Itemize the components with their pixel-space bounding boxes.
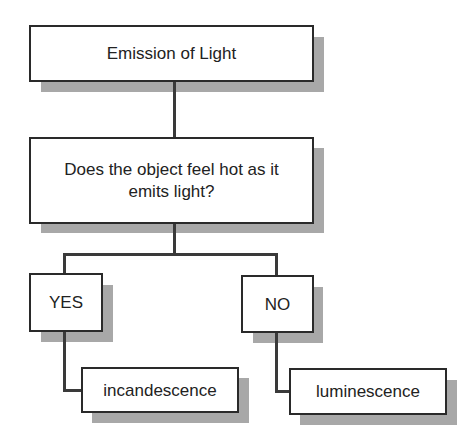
no-node: NO xyxy=(241,275,314,333)
connector-question-down xyxy=(173,223,176,255)
connector-branch-horizontal xyxy=(63,253,277,256)
question-node: Does the object feel hot as it emits lig… xyxy=(29,137,314,224)
connector-no-to-luminescence xyxy=(275,390,290,393)
connector-no-down xyxy=(275,331,278,393)
luminescence-node-label: luminescence xyxy=(316,381,420,402)
connector-root-to-question xyxy=(173,81,176,137)
yes-node-label: YES xyxy=(49,292,83,313)
connector-to-yes xyxy=(63,253,66,274)
connector-yes-down xyxy=(63,330,66,392)
connector-to-no xyxy=(275,253,278,276)
flowchart-canvas: Emission of Light Does the object feel h… xyxy=(0,0,476,446)
no-node-label: NO xyxy=(265,294,291,315)
incandescence-node-label: incandescence xyxy=(103,380,216,401)
yes-node: YES xyxy=(29,273,103,332)
luminescence-node: luminescence xyxy=(289,368,447,415)
incandescence-node: incandescence xyxy=(81,367,239,413)
root-node-label: Emission of Light xyxy=(107,43,236,64)
root-node: Emission of Light xyxy=(29,25,314,82)
connector-yes-to-incandescence xyxy=(63,389,82,392)
question-node-label: Does the object feel hot as it emits lig… xyxy=(49,159,294,203)
